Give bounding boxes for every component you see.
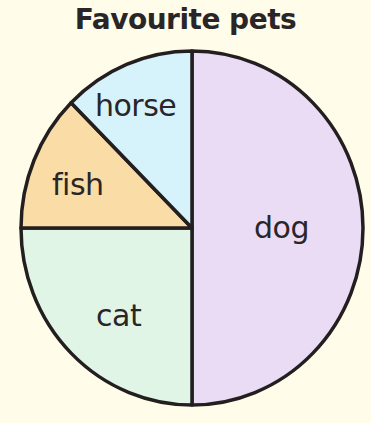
label-dog: dog <box>254 210 309 245</box>
chart-frame: Favourite pets dog cat fish horse <box>0 0 371 423</box>
label-fish: fish <box>52 167 104 202</box>
pie-chart: dog cat fish horse <box>0 0 371 423</box>
label-horse: horse <box>95 88 176 123</box>
label-cat: cat <box>96 298 142 333</box>
